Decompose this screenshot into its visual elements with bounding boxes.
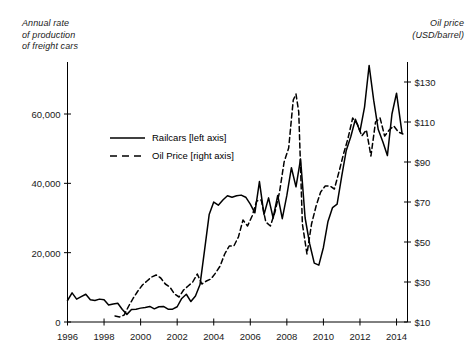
- x-axis-tick-label: 1996: [57, 331, 78, 342]
- series-oil-price: [115, 94, 403, 317]
- right-axis-tick-label: $70: [415, 197, 431, 208]
- x-axis-tick-label: 2012: [349, 331, 370, 342]
- series-railcars: [68, 65, 403, 314]
- legend-item-oil-price: Oil Price [right axis]: [152, 150, 234, 161]
- chart-figure: Annual rate of production of freight car…: [0, 0, 468, 353]
- x-axis-tick-label: 2002: [167, 331, 188, 342]
- left-axis-tick-label: 0: [55, 317, 60, 328]
- axes-group: [64, 62, 411, 326]
- x-axis-tick-label: 2006: [240, 331, 261, 342]
- right-axis-tick-label: $110: [415, 117, 435, 128]
- x-axis-tick-label: 2014: [386, 331, 407, 342]
- left-axis-tick-label: 60,000: [31, 109, 60, 120]
- right-axis-tick-label: $50: [415, 237, 431, 248]
- series-group: [68, 65, 403, 317]
- plot-area: [0, 0, 468, 353]
- x-axis-tick-label: 2008: [276, 331, 297, 342]
- x-axis-tick-label: 2000: [130, 331, 151, 342]
- right-axis-tick-label: $90: [415, 157, 431, 168]
- x-axis-tick-label: 2004: [203, 331, 224, 342]
- legend-item-railcars: Railcars [left axis]: [152, 132, 226, 143]
- right-axis-tick-label: $30: [415, 277, 431, 288]
- right-axis-tick-label: $130: [415, 77, 436, 88]
- left-axis-tick-label: 20,000: [31, 247, 60, 258]
- x-axis-tick-label: 2010: [313, 331, 334, 342]
- legend-lines: [110, 138, 145, 156]
- x-axis-tick-label: 1998: [93, 331, 114, 342]
- right-axis-tick-label: $10: [415, 317, 431, 328]
- left-axis-tick-label: 40,000: [31, 178, 60, 189]
